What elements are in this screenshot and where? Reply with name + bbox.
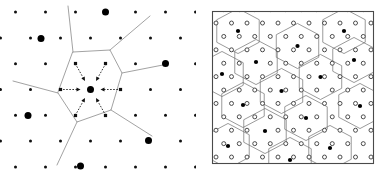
- lattice-ring: [268, 115, 272, 119]
- lattice-ring: [338, 75, 342, 79]
- lattice-ring: [315, 142, 319, 146]
- lattice-ring: [222, 34, 226, 38]
- arrow-lower-right-shaft: [98, 101, 105, 113]
- lattice-dot: [134, 11, 137, 14]
- lattice-ring: [245, 101, 249, 105]
- marked-lattice-dot-5: [77, 163, 84, 170]
- lattice-ring: [261, 48, 265, 52]
- arrow-upper-left-shaft: [77, 66, 84, 78]
- lattice-ring: [323, 155, 327, 159]
- lattice-ring: [214, 101, 218, 105]
- lattice-dot: [164, 165, 167, 168]
- lattice-ring: [230, 75, 234, 79]
- lattice-ring: [276, 48, 280, 52]
- lattice-dot: [164, 114, 167, 117]
- lattice-ring: [284, 115, 288, 119]
- lattice-ring: [330, 88, 334, 92]
- lattice-dot: [44, 11, 47, 14]
- lattice-dot: [119, 140, 122, 143]
- lattice-ring: [338, 155, 342, 159]
- left-panel: [0, 0, 196, 177]
- lattice-ring: [245, 128, 249, 132]
- arrow-lower-left-shaft: [77, 101, 84, 113]
- neighbour-site-0: [59, 88, 62, 91]
- lattice-ring: [338, 101, 342, 105]
- lattice-dot: [74, 11, 77, 14]
- lattice-ring: [330, 34, 334, 38]
- lattice-dot: [29, 140, 32, 143]
- lattice-ring: [361, 115, 365, 119]
- lattice-ring: [361, 61, 365, 65]
- lattice-ring: [354, 155, 358, 159]
- lattice-ring: [307, 48, 311, 52]
- lattice-dot: [59, 140, 62, 143]
- filled-centre-dot-4: [318, 75, 322, 79]
- lattice-ring: [354, 21, 358, 25]
- lattice-ring: [268, 88, 272, 92]
- neighbour-site-4: [74, 114, 77, 117]
- neighbour-site-5: [104, 114, 107, 117]
- left-panel-canvas: [0, 0, 196, 177]
- lattice-dot: [14, 62, 17, 65]
- lattice-dot: [29, 88, 32, 91]
- lattice-ring: [315, 61, 319, 65]
- lattice-ring: [237, 34, 241, 38]
- lattice-ring: [307, 128, 311, 132]
- neighbour-site-1: [119, 88, 122, 91]
- lattice-ring: [245, 155, 249, 159]
- marked-lattice-dot-0: [102, 9, 109, 16]
- lattice-ring: [253, 142, 257, 146]
- filled-centre-dot-10: [358, 104, 362, 108]
- right-panel: [196, 0, 391, 177]
- lattice-ring: [361, 142, 365, 146]
- lattice-ring: [230, 48, 234, 52]
- lattice-dot: [89, 36, 92, 39]
- lattice-dot: [134, 114, 137, 117]
- lattice-ring: [369, 21, 373, 25]
- filled-centre-dot-6: [279, 89, 283, 93]
- lattice-ring: [230, 155, 234, 159]
- lattice-ring: [361, 88, 365, 92]
- voronoi-cell-14: [269, 137, 311, 177]
- center-site-dot: [87, 86, 94, 93]
- lattice-ring: [261, 101, 265, 105]
- lattice-ring: [253, 88, 257, 92]
- lattice-ring: [292, 75, 296, 79]
- lattice-ring: [245, 21, 249, 25]
- arrow-left-head: [77, 88, 81, 92]
- lattice-ring: [292, 155, 296, 159]
- lattice-ring: [268, 142, 272, 146]
- lattice-ring: [261, 155, 265, 159]
- lattice-ring: [268, 34, 272, 38]
- lattice-dot: [59, 36, 62, 39]
- lattice-ring: [284, 88, 288, 92]
- lattice-dot: [0, 36, 2, 39]
- lattice-ring: [237, 88, 241, 92]
- lattice-ring: [237, 61, 241, 65]
- lattice-ring: [346, 115, 350, 119]
- lattice-ring: [292, 21, 296, 25]
- lattice-ring: [307, 21, 311, 25]
- lattice-ring: [245, 75, 249, 79]
- voronoi-edge-3: [111, 110, 152, 136]
- lattice-ring: [230, 128, 234, 132]
- figure-root: [0, 0, 391, 177]
- lattice-dot: [74, 165, 77, 168]
- lattice-ring: [299, 61, 303, 65]
- lattice-dot: [14, 11, 17, 14]
- lattice-ring: [338, 21, 342, 25]
- filled-centre-dot-8: [241, 103, 245, 107]
- lattice-ring: [268, 61, 272, 65]
- lattice-ring: [307, 101, 311, 105]
- filled-centre-dot-2: [342, 29, 346, 33]
- filled-centre-dot-0: [236, 29, 240, 33]
- lattice-ring: [307, 155, 311, 159]
- lattice-ring: [214, 48, 218, 52]
- lattice-dot: [29, 36, 32, 39]
- lattice-dot: [119, 36, 122, 39]
- arrow-right-head: [101, 88, 105, 92]
- lattice-ring: [323, 128, 327, 132]
- filled-centre-dot-9: [304, 116, 308, 120]
- lattice-ring: [307, 75, 311, 79]
- filled-centre-dot-1: [295, 44, 299, 48]
